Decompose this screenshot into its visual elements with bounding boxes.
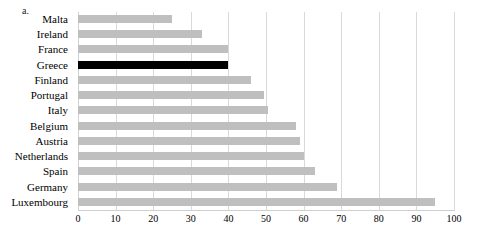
y-label-luxembourg: Luxembourg: [11, 195, 68, 210]
x-tick-label-60: 60: [299, 213, 309, 224]
x-tick-label-50: 50: [261, 213, 271, 224]
bar-row: [78, 58, 454, 73]
bar-row: [78, 42, 454, 57]
bar-row: [78, 195, 454, 210]
bar-row: [78, 119, 454, 134]
x-tick-label-30: 30: [186, 213, 196, 224]
y-label-portugal: Portugal: [31, 88, 68, 103]
bar-row: [78, 180, 454, 195]
y-label-belgium: Belgium: [30, 119, 68, 134]
y-label-france: France: [38, 42, 68, 57]
bar-finland: [78, 76, 251, 84]
bar-belgium: [78, 122, 296, 130]
x-tick-label-70: 70: [336, 213, 346, 224]
bar-germany: [78, 183, 337, 191]
gridline-100: [454, 12, 455, 210]
y-label-austria: Austria: [36, 134, 68, 149]
bar-ireland: [78, 30, 202, 38]
x-tick-label-10: 10: [111, 213, 121, 224]
y-label-finland: Finland: [34, 73, 68, 88]
bar-row: [78, 164, 454, 179]
y-label-italy: Italy: [48, 103, 68, 118]
plot-area: [78, 12, 454, 210]
y-label-greece: Greece: [37, 58, 68, 73]
bar-row: [78, 103, 454, 118]
y-label-malta: Malta: [42, 12, 68, 27]
chart-figure: a. MaltaIrelandFranceGreeceFinlandPortug…: [0, 0, 482, 244]
y-label-ireland: Ireland: [37, 27, 68, 42]
bar-malta: [78, 15, 172, 23]
bar-luxembourg: [78, 198, 435, 206]
bar-netherlands: [78, 152, 304, 160]
bar-row: [78, 12, 454, 27]
x-axis-line: [78, 210, 455, 211]
bar-row: [78, 149, 454, 164]
x-tick-label-80: 80: [374, 213, 384, 224]
y-axis-category-labels: MaltaIrelandFranceGreeceFinlandPortugalI…: [0, 12, 74, 210]
bar-greece: [78, 61, 228, 69]
x-axis-tick-labels: 0102030405060708090100: [0, 213, 482, 233]
bar-austria: [78, 137, 300, 145]
bar-row: [78, 134, 454, 149]
bar-spain: [78, 167, 315, 175]
bar-row: [78, 88, 454, 103]
y-label-spain: Spain: [43, 164, 68, 179]
bar-france: [78, 45, 228, 53]
x-tick-label-20: 20: [148, 213, 158, 224]
x-tick-label-0: 0: [76, 213, 81, 224]
bar-row: [78, 73, 454, 88]
x-tick-label-40: 40: [223, 213, 233, 224]
y-label-netherlands: Netherlands: [15, 149, 68, 164]
x-tick-label-100: 100: [447, 213, 462, 224]
bar-row: [78, 27, 454, 42]
y-label-germany: Germany: [27, 180, 68, 195]
bar-series: [78, 12, 454, 210]
x-tick-label-90: 90: [411, 213, 421, 224]
bar-portugal: [78, 91, 264, 99]
bar-italy: [78, 106, 268, 114]
